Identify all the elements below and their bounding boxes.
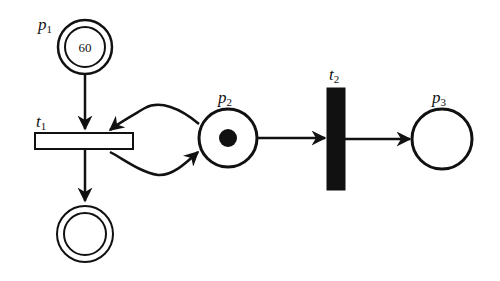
- t2-label: t2: [329, 65, 339, 85]
- p3-label: p3: [431, 88, 447, 108]
- p1-label: p1: [37, 15, 52, 35]
- place-p3[interactable]: [412, 109, 472, 169]
- place-output[interactable]: [57, 206, 113, 262]
- arc-t1-p2: [110, 152, 198, 175]
- arc-p2-t1: [110, 105, 199, 130]
- transition-t1[interactable]: [35, 133, 133, 149]
- petri-net-diagram: 60 p1 t1 p2 t2 p: [0, 0, 500, 281]
- p1-token-count: 60: [79, 40, 92, 55]
- p2-label: p2: [217, 88, 232, 108]
- t1-label: t1: [36, 112, 46, 132]
- place-p2[interactable]: [199, 109, 257, 167]
- p2-token: [219, 129, 237, 147]
- transition-t2[interactable]: [327, 88, 345, 190]
- diagram-svg: 60 p1 t1 p2 t2 p: [0, 0, 500, 281]
- place-p1[interactable]: 60: [58, 20, 112, 74]
